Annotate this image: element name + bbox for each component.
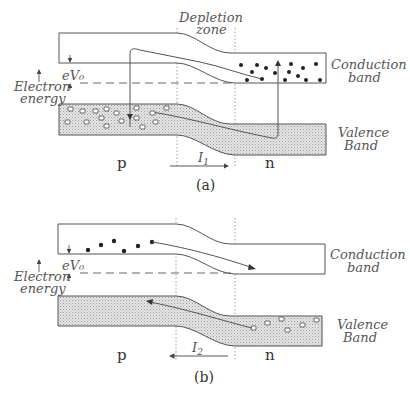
caption-a: (a)	[196, 177, 215, 193]
caption-b: (b)	[194, 369, 214, 385]
valence-label-2: Band	[343, 138, 378, 153]
conduction-band	[58, 224, 325, 274]
conduction-band	[59, 33, 326, 83]
valence-band	[59, 104, 326, 155]
energy-label-2: energy	[20, 281, 66, 296]
current-label: I1	[197, 150, 209, 167]
depletion-label-2: zone	[195, 22, 227, 37]
current-label: I2	[191, 340, 203, 357]
pn-junction-diagram: eV₀ Electron energy Depletion zone Condu…	[0, 0, 410, 396]
conduction-label-2: band	[347, 260, 380, 275]
panel-a: eV₀ Electron energy Depletion zone Condu…	[13, 10, 407, 193]
n-label: n	[265, 346, 275, 364]
p-label: p	[117, 154, 127, 172]
p-label: p	[117, 346, 127, 364]
valence-label-2: Band	[342, 330, 377, 345]
energy-label-2: energy	[20, 91, 66, 106]
n-label: n	[265, 154, 275, 172]
panel-b: eV₀ Electron energy Conduction band Vale…	[13, 218, 406, 385]
conduction-label-2: band	[348, 70, 381, 85]
